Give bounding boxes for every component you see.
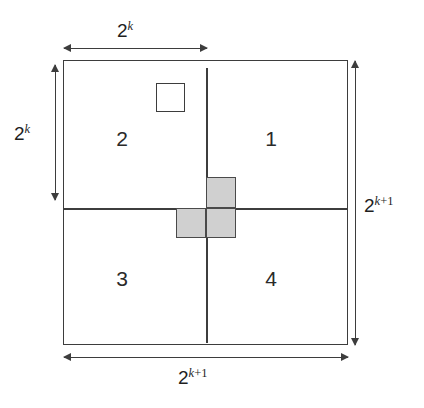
quadrant-label-3: 3 bbox=[109, 268, 135, 289]
dimension-label-right: 2k+1 bbox=[364, 196, 393, 215]
dimension-label-right-base: 2 bbox=[364, 195, 375, 216]
quadrant-label-1: 1 bbox=[258, 128, 284, 149]
defective-square bbox=[156, 83, 185, 112]
dimension-label-top-exponent: k bbox=[128, 19, 134, 33]
dimension-label-top-base: 2 bbox=[117, 20, 128, 41]
dimension-label-left-exponent: k bbox=[25, 122, 31, 136]
dimension-label-top: 2k bbox=[117, 21, 133, 40]
dimension-label-bottom-base: 2 bbox=[178, 367, 189, 388]
dimension-arrow-right bbox=[355, 61, 356, 345]
dimension-label-left: 2k bbox=[14, 124, 30, 143]
dimension-label-left-base: 2 bbox=[14, 123, 25, 144]
tromino-tiling-diagram: 1 2 3 4 2k 2k 2k+1 2k+1 bbox=[0, 0, 424, 408]
dimension-label-right-exponent: k+1 bbox=[375, 194, 394, 208]
dimension-label-right-exponent-rest: +1 bbox=[380, 194, 393, 208]
quadrant-label-2: 2 bbox=[109, 128, 135, 149]
quadrant-label-4: 4 bbox=[258, 268, 284, 289]
dimension-label-bottom-exponent: k+1 bbox=[189, 366, 208, 380]
dimension-label-bottom: 2k+1 bbox=[178, 368, 207, 387]
dimension-arrow-top bbox=[64, 48, 207, 49]
dimension-label-bottom-exponent-rest: +1 bbox=[194, 366, 207, 380]
tromino-cell-bottom-left bbox=[176, 208, 206, 238]
dimension-arrow-bottom bbox=[64, 357, 348, 358]
dimension-arrow-left bbox=[55, 65, 56, 200]
tromino-cell-top bbox=[206, 177, 236, 208]
tromino-cell-bottom-right bbox=[206, 208, 236, 238]
